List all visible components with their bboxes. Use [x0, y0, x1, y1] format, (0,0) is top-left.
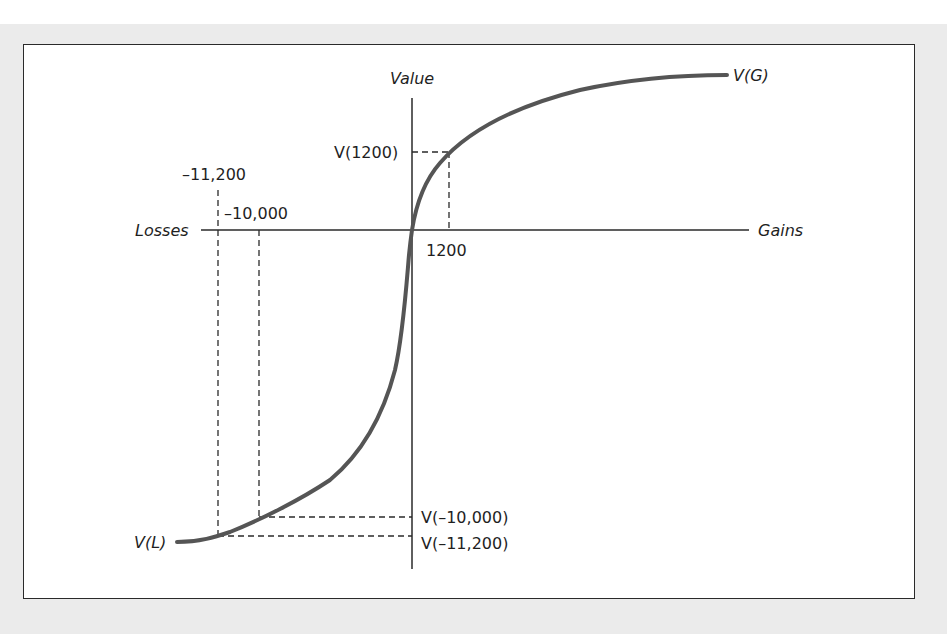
value-function-diagram: Value Gains Losses V(G) V(L) 1200 V(1200…	[0, 0, 951, 635]
x-axis-gains-label: Gains	[758, 221, 803, 240]
x-axis-losses-label: Losses	[135, 221, 189, 240]
gain-y-tick-label: V(1200)	[334, 143, 398, 162]
loss-10000-x-tick-label: –10,000	[224, 204, 288, 223]
loss-10000-y-tick-label: V(–10,000)	[421, 508, 508, 527]
curve-gain-end-label: V(G)	[733, 66, 769, 85]
y-axis-label: Value	[390, 69, 434, 88]
gain-x-tick-label: 1200	[426, 241, 467, 260]
curve-loss-end-label: V(L)	[134, 533, 166, 552]
loss-11200-x-tick-label: –11,200	[182, 165, 246, 184]
loss-11200-y-tick-label: V(–11,200)	[421, 534, 508, 553]
